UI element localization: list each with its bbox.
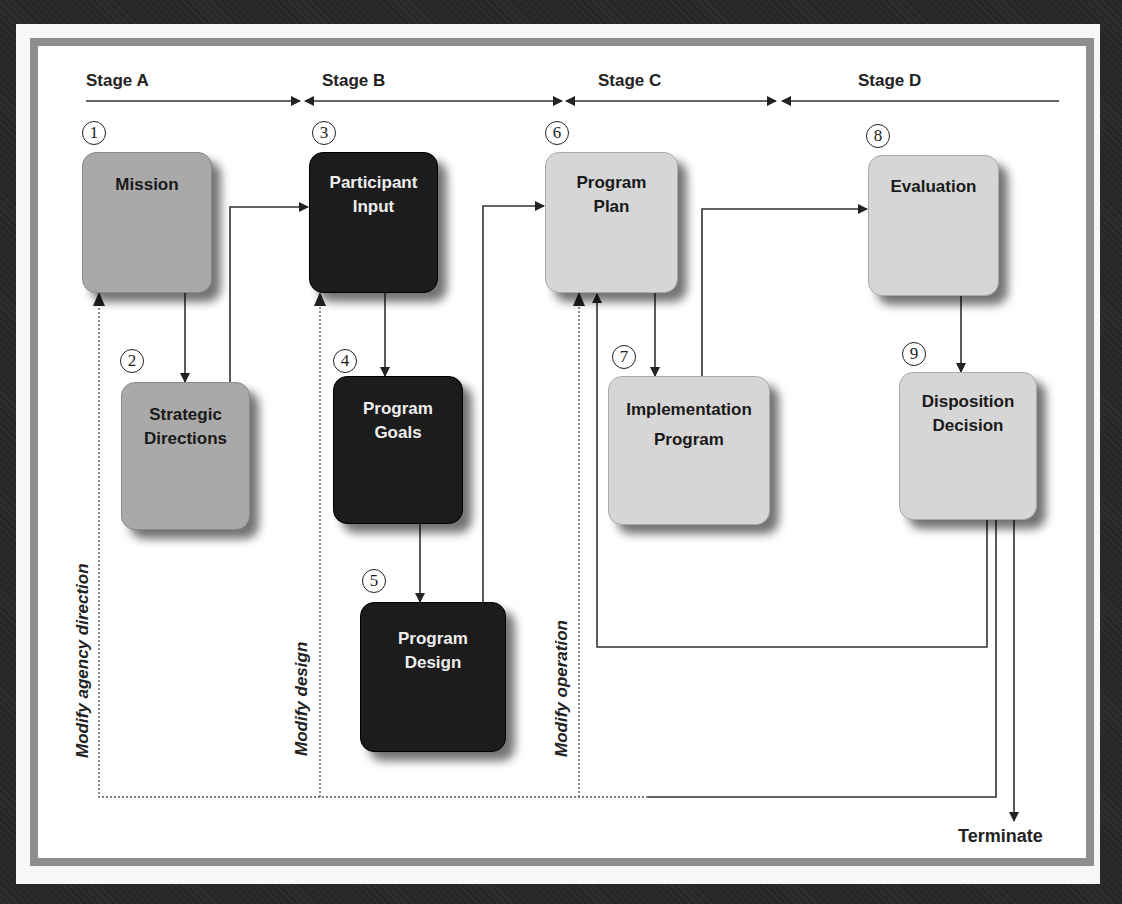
step-number-1: 1 xyxy=(82,121,106,145)
node-implementation-program: Implementation Program xyxy=(608,376,770,525)
terminate-label: Terminate xyxy=(958,826,1043,847)
node-label: Program xyxy=(609,425,769,455)
step-number-7: 7 xyxy=(612,345,636,369)
node-participant-input: Participant Input xyxy=(309,152,438,293)
node-label: Strategic xyxy=(122,403,249,427)
node-disposition-decision: Disposition Decision xyxy=(899,372,1037,520)
node-label: Program xyxy=(546,171,677,195)
node-label: Disposition xyxy=(900,390,1036,414)
node-strategic-directions: Strategic Directions xyxy=(121,382,250,530)
stage-d-label: Stage D xyxy=(858,71,921,91)
node-program-plan: Program Plan xyxy=(545,152,678,293)
stage-b-label: Stage B xyxy=(322,71,385,91)
node-label: Goals xyxy=(334,421,462,445)
feedback-label-agency: Modify agency direction xyxy=(73,563,93,758)
feedback-label-design: Modify design xyxy=(292,642,312,756)
feedback-label-operation: Modify operation xyxy=(552,620,572,757)
node-label: Directions xyxy=(122,427,249,451)
node-label: Mission xyxy=(83,173,211,197)
step-number-2: 2 xyxy=(120,349,144,373)
node-label: Evaluation xyxy=(869,175,998,199)
node-label: Program xyxy=(361,627,505,651)
step-number-9: 9 xyxy=(902,342,926,366)
step-number-6: 6 xyxy=(545,121,569,145)
step-number-8: 8 xyxy=(866,124,890,148)
node-label: Input xyxy=(310,195,437,219)
node-label: Implementation xyxy=(609,395,769,425)
step-number-4: 4 xyxy=(333,349,357,373)
node-program-goals: Program Goals xyxy=(333,376,463,524)
node-mission: Mission xyxy=(82,152,212,293)
step-number-3: 3 xyxy=(312,121,336,145)
node-label: Plan xyxy=(546,195,677,219)
node-label: Participant xyxy=(310,171,437,195)
node-label: Design xyxy=(361,651,505,675)
node-label: Program xyxy=(334,397,462,421)
stage-c-label: Stage C xyxy=(598,71,661,91)
stage-a-label: Stage A xyxy=(86,71,149,91)
node-evaluation: Evaluation xyxy=(868,155,999,296)
step-number-5: 5 xyxy=(362,569,386,593)
node-label: Decision xyxy=(900,414,1036,438)
node-program-design: Program Design xyxy=(360,602,506,752)
